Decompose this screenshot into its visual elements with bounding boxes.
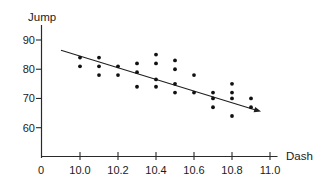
data-point [135, 85, 139, 89]
data-point [97, 56, 101, 60]
data-point [135, 61, 139, 65]
data-point [230, 82, 234, 86]
data-point [78, 56, 82, 60]
data-point [173, 91, 177, 95]
data-point [97, 64, 101, 68]
y-axis-title: Jump [28, 11, 56, 23]
scatter-plot: Jump Dash 0 9080706010.010.210.410.610.8… [0, 0, 336, 194]
data-point [173, 59, 177, 63]
origin-tick-label: 0 [38, 164, 44, 176]
data-point [249, 105, 253, 109]
x-tick-label: 11.0 [260, 164, 281, 176]
data-point [211, 97, 215, 101]
data-point [249, 97, 253, 101]
data-point [135, 70, 139, 74]
data-point [211, 105, 215, 109]
plot-generated: 9080706010.010.210.410.610.811.0 [23, 25, 281, 176]
scatter-figure: Jump Dash 0 9080706010.010.210.410.610.8… [0, 0, 336, 194]
x-tick-label: 10.6 [183, 164, 204, 176]
data-point [154, 85, 158, 89]
data-point [78, 64, 82, 68]
data-point [154, 61, 158, 65]
y-tick-label: 90 [23, 34, 35, 46]
data-point [154, 53, 158, 57]
data-point [192, 73, 196, 77]
data-point [173, 67, 177, 71]
y-tick-label: 80 [23, 63, 35, 75]
x-tick-label: 10.2 [107, 164, 128, 176]
data-point [116, 73, 120, 77]
x-tick-label: 10.8 [221, 164, 242, 176]
trend-line [61, 50, 257, 110]
y-tick-label: 70 [23, 92, 35, 104]
data-point [230, 97, 234, 101]
x-tick-label: 10.4 [145, 164, 166, 176]
data-point [192, 91, 196, 95]
data-point [116, 64, 120, 68]
x-axis-title: Dash [286, 150, 313, 162]
data-point [154, 78, 158, 82]
y-tick-label: 60 [23, 122, 35, 134]
data-point [97, 73, 101, 77]
data-point [211, 91, 215, 95]
data-point [173, 82, 177, 86]
x-tick-label: 10.0 [69, 164, 90, 176]
trend-line-arrowhead [254, 107, 261, 112]
data-point [230, 114, 234, 118]
data-point [230, 91, 234, 95]
